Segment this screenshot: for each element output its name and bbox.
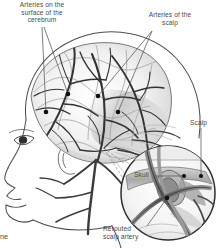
anatomical-drawing (0, 0, 220, 248)
label-cerebrum-arteries: Arteries on the surface of the cerebrum (6, 1, 78, 24)
marker-cerebrum-2 (66, 92, 71, 97)
marker-scalp-artery-1 (96, 94, 101, 99)
cropped-caption-fragment: ne (0, 233, 8, 241)
label-rerouted-scalp-artery: Rerouted scalp artery (103, 225, 163, 240)
marker-scalp (199, 174, 203, 178)
label-scalp: Scalp (190, 119, 218, 127)
illustration-canvas: Arteries on the surface of the cerebrum … (0, 0, 220, 248)
marker-rerouted-artery (165, 196, 170, 201)
eye (9, 129, 34, 144)
label-scalp-arteries: Arteries of the scalp (133, 11, 207, 26)
marker-cerebrum-1 (44, 110, 49, 115)
label-skull: Skull (134, 171, 158, 179)
marker-scalp-artery-2 (116, 110, 121, 115)
marker-skull (182, 174, 186, 178)
